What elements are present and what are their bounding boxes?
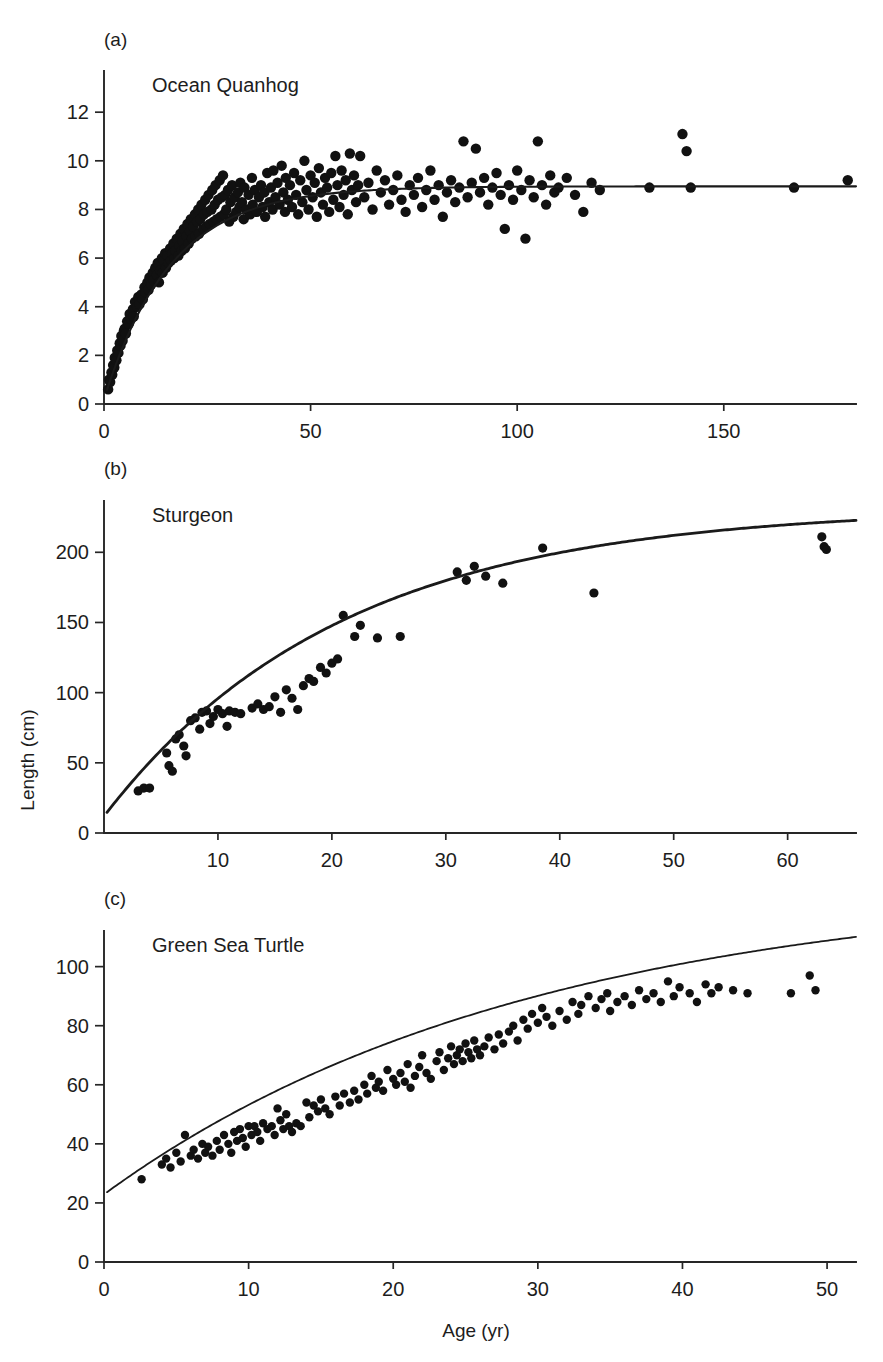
panel-b-tag: (b) (104, 458, 127, 479)
data-point (822, 545, 831, 554)
x-tick-label: 60 (777, 849, 799, 871)
y-tick-label: 4 (78, 296, 89, 318)
data-point (303, 204, 313, 214)
data-point (396, 195, 406, 205)
data-point (642, 995, 650, 1003)
data-point (415, 1063, 423, 1071)
x-tick-label: 30 (435, 849, 457, 871)
data-point (677, 129, 687, 139)
data-point (681, 146, 691, 156)
data-point (555, 1007, 563, 1015)
data-point (282, 1110, 290, 1118)
data-point (495, 1030, 503, 1038)
panel-c-ticks (95, 967, 827, 1269)
data-point (520, 233, 530, 243)
y-axis-title-text: Length (cm) (17, 709, 38, 810)
data-point (179, 741, 188, 750)
data-point (392, 170, 402, 180)
data-point (476, 1051, 484, 1059)
data-point (403, 1060, 411, 1068)
data-point (355, 151, 365, 161)
data-point (461, 1039, 469, 1047)
data-point (317, 1095, 325, 1103)
data-point (236, 709, 245, 718)
data-point (670, 992, 678, 1000)
panel-b-title: Sturgeon (152, 504, 233, 526)
data-point (462, 576, 471, 585)
data-point (325, 1110, 333, 1118)
x-tick-label: 10 (207, 849, 229, 871)
y-tick-label: 80 (67, 1015, 89, 1037)
data-point (568, 998, 576, 1006)
data-point (282, 685, 291, 694)
data-point (396, 1069, 404, 1077)
data-point (574, 1010, 582, 1018)
panel-ocean-quahog: (a) Ocean Quanhog 024681012050100150 (67, 29, 856, 442)
y-tick-label: 200 (56, 541, 89, 563)
data-point (350, 1086, 358, 1094)
data-point (220, 1131, 228, 1139)
data-point (529, 192, 539, 202)
y-tick-label: 8 (78, 198, 89, 220)
data-point (239, 1134, 247, 1142)
panel-a-ticks (95, 112, 724, 411)
data-point (435, 1048, 443, 1056)
data-point (354, 1095, 362, 1103)
growth-curve-figure: Length (cm) Age (yr) (a) Ocean Quanhog 0… (0, 0, 883, 1362)
data-point (480, 1042, 488, 1050)
y-tick-label: 0 (78, 393, 89, 415)
data-point (787, 989, 795, 997)
panel-b-fit-curve (107, 520, 856, 812)
data-point (707, 989, 715, 997)
data-point (519, 1016, 527, 1024)
data-point (509, 1021, 517, 1029)
data-point (471, 143, 481, 153)
y-tick-label: 0 (78, 822, 89, 844)
figure-canvas: Length (cm) Age (yr) (a) Ocean Quanhog 0… (0, 0, 883, 1362)
data-point (524, 175, 534, 185)
data-point (446, 175, 456, 185)
data-point (538, 1004, 546, 1012)
data-point (470, 1036, 478, 1044)
data-point (383, 1066, 391, 1074)
x-tick-label: 20 (382, 1278, 404, 1300)
data-point (613, 998, 621, 1006)
data-point (314, 1107, 322, 1115)
data-point (450, 197, 460, 207)
data-point (817, 532, 826, 541)
y-tick-label: 6 (78, 247, 89, 269)
data-point (584, 992, 592, 1000)
data-point (305, 1113, 313, 1121)
data-point (172, 1149, 180, 1157)
data-point (811, 986, 819, 994)
data-point (363, 1089, 371, 1097)
data-point (491, 168, 501, 178)
data-point (495, 190, 505, 200)
data-point (353, 180, 363, 190)
data-point (256, 1137, 264, 1145)
data-point (729, 986, 737, 994)
data-point (379, 1086, 387, 1094)
data-point (392, 1081, 400, 1089)
data-point (224, 1140, 232, 1148)
data-point (528, 1010, 536, 1018)
data-point (295, 175, 305, 185)
data-point (137, 1175, 145, 1183)
data-point (276, 708, 285, 717)
data-point (578, 207, 588, 217)
data-point (548, 1021, 556, 1029)
data-point (591, 1004, 599, 1012)
y-tick-label: 150 (56, 611, 89, 633)
data-point (400, 207, 410, 217)
data-point (589, 588, 598, 597)
data-point (302, 1098, 310, 1106)
y-tick-label: 2 (78, 344, 89, 366)
panel-c-tag: (c) (104, 888, 126, 909)
data-point (336, 165, 346, 175)
data-point (458, 1057, 466, 1065)
panel-c-tick-labels: 02040608010001020304050 (56, 956, 839, 1300)
data-point (310, 178, 320, 188)
data-point (442, 187, 452, 197)
y-tick-label: 50 (67, 752, 89, 774)
data-point (375, 1078, 383, 1086)
